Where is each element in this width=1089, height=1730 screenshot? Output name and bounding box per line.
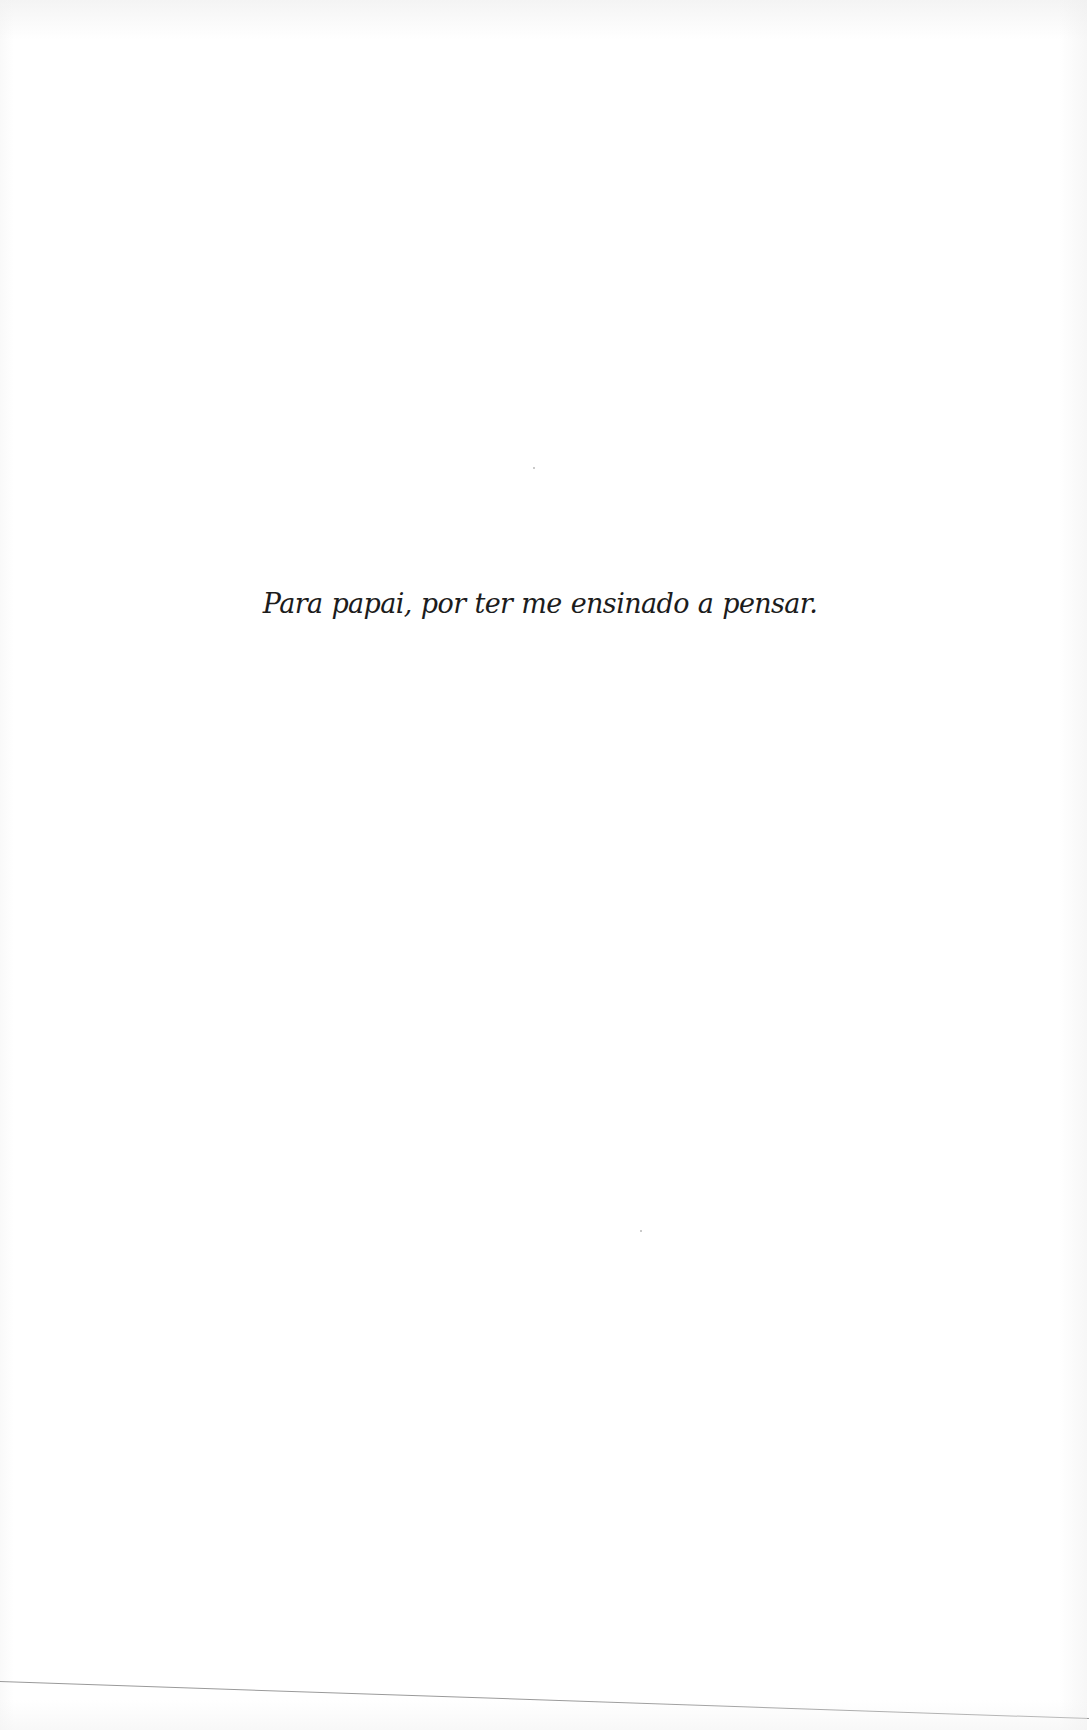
scan-shadow-right [1059, 0, 1087, 1730]
scan-shadow-top [0, 0, 1087, 40]
scan-shadow-bottom [0, 1700, 1087, 1730]
scan-shadow-left [0, 0, 14, 1730]
scan-speck [640, 1230, 642, 1232]
dedication-text: Para papai, por ter me ensinado a pensar… [0, 584, 1080, 624]
scan-speck [533, 467, 535, 469]
